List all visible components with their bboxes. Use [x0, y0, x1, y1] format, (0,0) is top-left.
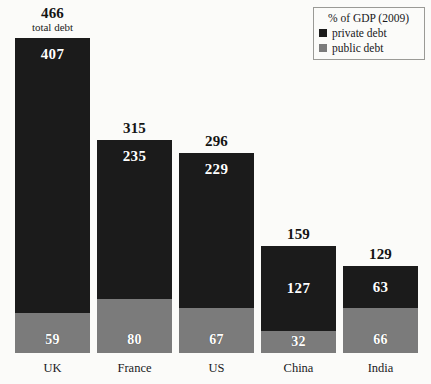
- bar-segment-public-india: 66: [343, 308, 418, 353]
- bar-value-private-uk: 407: [41, 46, 64, 63]
- bar-total-value-india: 129: [343, 246, 418, 262]
- bar-segment-public-china: 32: [261, 331, 336, 353]
- category-label-us: US: [179, 361, 254, 376]
- bar-segment-private-us: 229: [179, 153, 254, 308]
- category-label-uk: UK: [15, 361, 90, 376]
- bar-group-china: 12732159China: [261, 246, 336, 353]
- category-label-india: India: [343, 361, 418, 376]
- bar-total-value-france: 315: [97, 120, 172, 136]
- bar-segment-private-india: 63: [343, 266, 418, 309]
- bar-segment-private-china: 127: [261, 246, 336, 332]
- bar-value-private-china: 127: [287, 280, 310, 297]
- bar-total-value-uk: 466: [15, 5, 90, 21]
- bar-value-private-us: 229: [205, 161, 228, 178]
- bar-value-private-india: 63: [373, 279, 389, 296]
- bar-value-public-india: 66: [373, 332, 388, 348]
- bar-segment-private-uk: 407: [15, 38, 90, 313]
- bar-segment-private-france: 235: [97, 140, 172, 299]
- bar-value-public-us: 67: [209, 332, 224, 348]
- category-label-france: France: [97, 361, 172, 376]
- bar-total-france: 315: [97, 120, 172, 136]
- plot-area: 40759466total debtUK23580315France229672…: [0, 0, 431, 384]
- bar-total-us: 296: [179, 133, 254, 149]
- debt-by-country-chart: % of GDP (2009) private debt public debt…: [0, 0, 431, 384]
- bar-total-china: 159: [261, 226, 336, 242]
- bar-value-public-uk: 59: [45, 332, 60, 348]
- bar-value-private-france: 235: [123, 148, 146, 165]
- bar-group-france: 23580315France: [97, 140, 172, 353]
- bar-total-value-us: 296: [179, 133, 254, 149]
- bar-group-uk: 40759466total debtUK: [15, 38, 90, 353]
- bar-value-public-france: 80: [127, 332, 142, 348]
- bar-segment-public-france: 80: [97, 299, 172, 353]
- bar-total-value-china: 159: [261, 226, 336, 242]
- bar-segment-public-us: 67: [179, 308, 254, 353]
- bar-group-india: 6366129India: [343, 266, 418, 353]
- bar-total-india: 129: [343, 246, 418, 262]
- bar-total-uk: 466total debt: [15, 5, 90, 33]
- bar-segment-public-uk: 59: [15, 313, 90, 353]
- bar-value-public-china: 32: [291, 334, 306, 350]
- bar-group-us: 22967296US: [179, 153, 254, 353]
- total-debt-annotation: total debt: [15, 21, 90, 33]
- category-label-china: China: [261, 361, 336, 376]
